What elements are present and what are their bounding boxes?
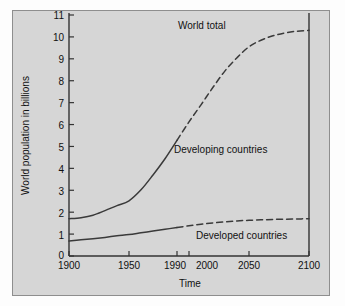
x-tick-label: 1900 (49, 260, 89, 271)
y-tick-label: 10 (40, 32, 64, 43)
x-tick-label: 2100 (289, 260, 329, 271)
x-tick-label: 2050 (229, 260, 269, 271)
y-tick-label: 2 (40, 208, 64, 219)
x-tick-label: 1950 (109, 260, 149, 271)
y-tick-label: 3 (40, 186, 64, 197)
y-axis-title: World population in billions (20, 66, 31, 206)
y-tick-label: 8 (40, 76, 64, 87)
series-line-developed-countries-projected (177, 219, 309, 228)
y-tick-label: 6 (40, 120, 64, 131)
y-tick-label: 5 (40, 142, 64, 153)
y-tick-label: 7 (40, 98, 64, 109)
y-tick-label: 11 (40, 10, 64, 21)
annotation-developed-countries: Developed countries (196, 230, 287, 241)
series-line-world-total-historical (69, 140, 177, 218)
data-series-group (69, 30, 309, 241)
y-tick-label: 1 (40, 230, 64, 241)
x-axis-title: Time (140, 278, 240, 289)
x-tick-label: 2000 (187, 260, 227, 271)
annotation-developing-countries: Developing countries (174, 144, 267, 155)
annotation-world-total: World total (178, 20, 226, 31)
figure-canvas: 11 10 9 8 7 6 5 4 3 2 1 0 1900 1950 1990… (0, 0, 345, 306)
series-line-developed-countries-historical (69, 228, 177, 242)
y-tick-label: 4 (40, 164, 64, 175)
y-tick-label: 9 (40, 54, 64, 65)
series-line-world-total-projected (177, 30, 309, 140)
